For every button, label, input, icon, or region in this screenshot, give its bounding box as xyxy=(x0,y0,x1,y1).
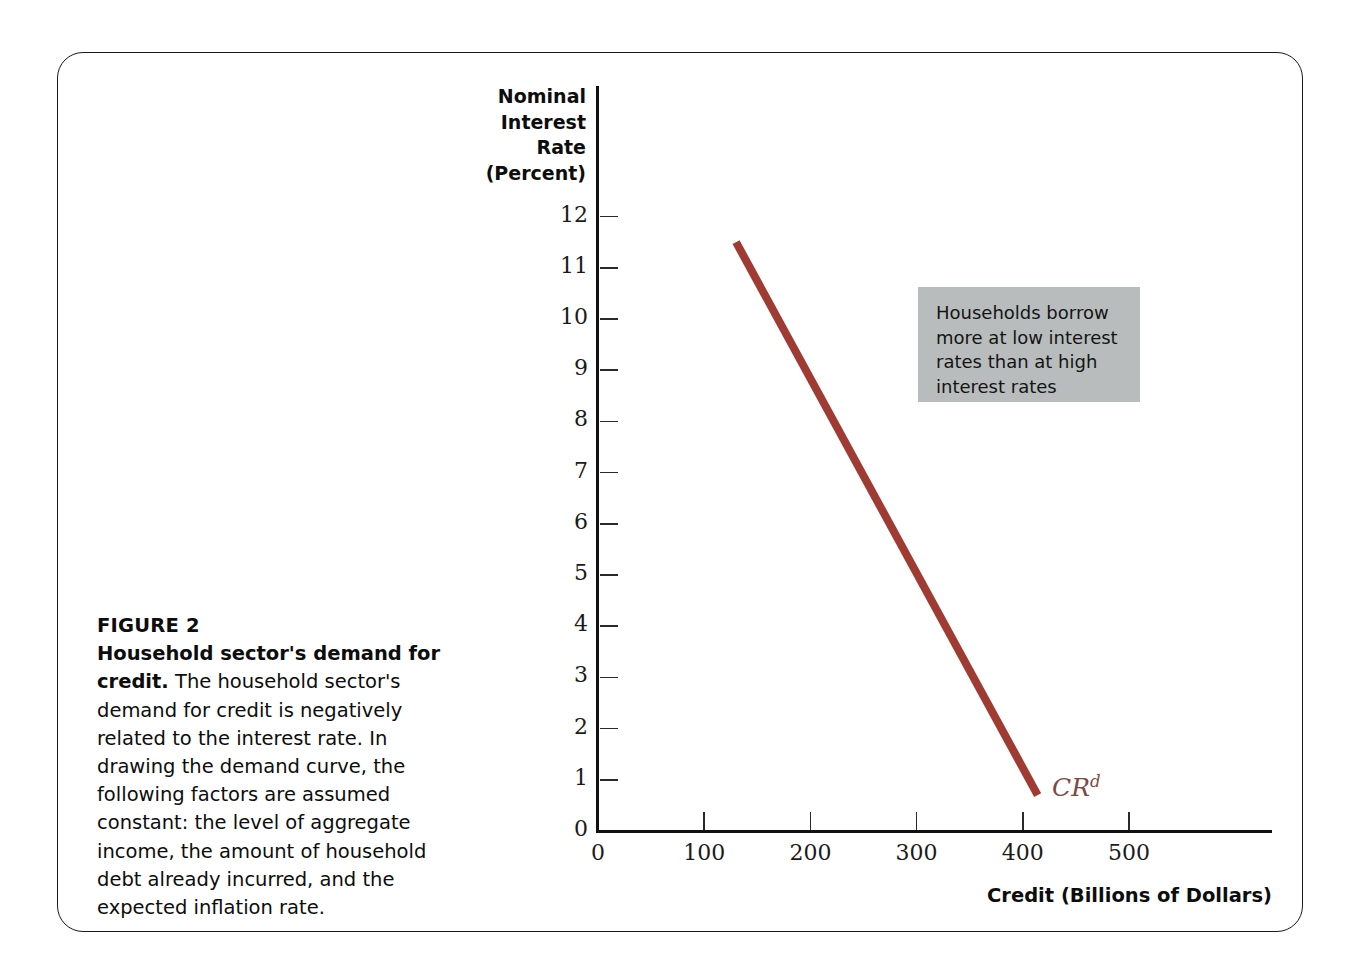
demand-curve-svg xyxy=(0,0,1356,972)
curve-label-main: CR xyxy=(1052,773,1090,802)
curve-label-superscript: d xyxy=(1090,772,1101,791)
callout-box: Households borrow more at low interest r… xyxy=(918,287,1140,402)
chart-plot-area: Nominal Interest Rate (Percent) 01234567… xyxy=(0,0,1356,972)
x-axis-title: Credit (Billions of Dollars) xyxy=(872,884,1272,907)
callout-text: Households borrow more at low interest r… xyxy=(936,301,1126,399)
demand-curve-label: CRd xyxy=(1052,772,1101,802)
